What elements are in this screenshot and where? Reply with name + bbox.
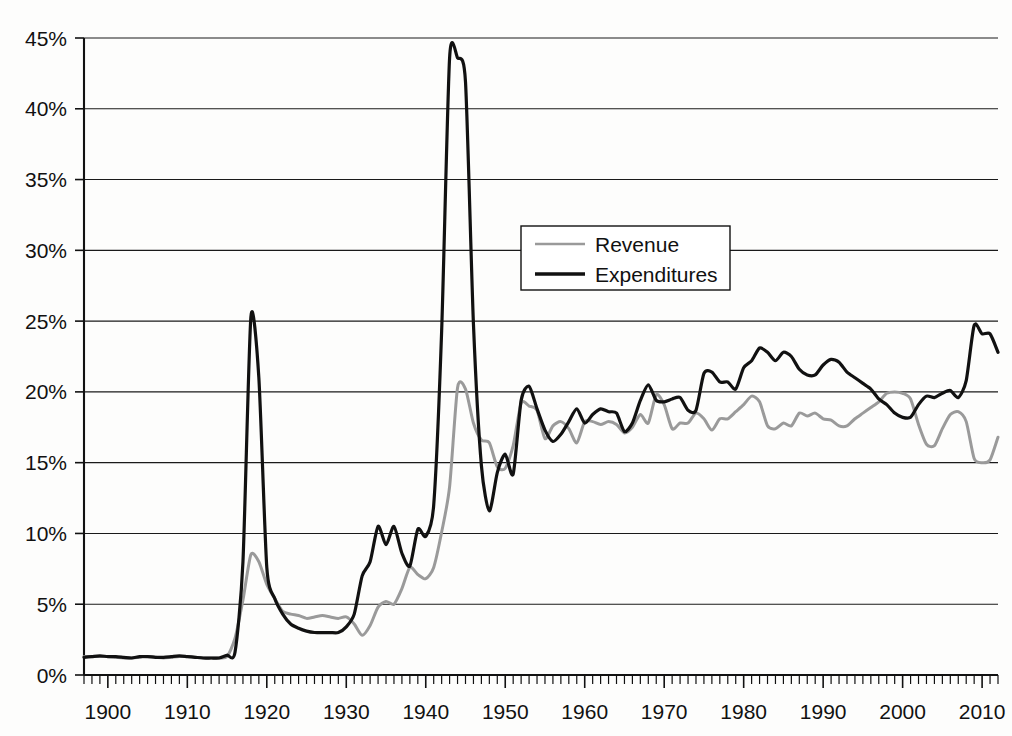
x-tick-label: 1980 — [720, 700, 767, 723]
chart-legend: RevenueExpenditures — [521, 226, 730, 290]
chart-container: 0%5%10%15%20%25%30%35%40%45% 19001910192… — [0, 0, 1012, 736]
y-tick-label: 45% — [25, 27, 67, 50]
x-tick-label: 2010 — [959, 700, 1006, 723]
y-tick-label: 0% — [37, 664, 67, 687]
y-tick-label: 20% — [25, 380, 67, 403]
y-tick-label: 15% — [25, 451, 67, 474]
y-tick-label: 5% — [37, 593, 67, 616]
x-axis-labels-group: 1900191019201930194019501960197019801990… — [84, 700, 1005, 723]
y-axis-ticks-group — [75, 38, 84, 675]
y-tick-label: 10% — [25, 522, 67, 545]
x-tick-label: 1970 — [641, 700, 688, 723]
y-axis-labels-group: 0%5%10%15%20%25%30%35%40%45% — [25, 27, 67, 687]
x-tick-label: 1940 — [402, 700, 449, 723]
x-tick-label: 1990 — [800, 700, 847, 723]
x-tick-label: 2000 — [879, 700, 926, 723]
x-tick-label: 1900 — [84, 700, 131, 723]
line-chart-figure: 0%5%10%15%20%25%30%35%40%45% 19001910192… — [0, 0, 1012, 736]
legend-label-expenditures: Expenditures — [595, 263, 718, 286]
y-tick-label: 40% — [25, 97, 67, 120]
data-series-group — [84, 43, 998, 659]
x-tick-label: 1920 — [243, 700, 290, 723]
x-axis-minor-ticks-group — [84, 675, 998, 688]
x-tick-label: 1930 — [323, 700, 370, 723]
x-tick-label: 1950 — [482, 700, 529, 723]
x-tick-label: 1910 — [164, 700, 211, 723]
y-tick-label: 35% — [25, 168, 67, 191]
y-tick-label: 30% — [25, 239, 67, 262]
gridlines-group — [84, 38, 998, 604]
legend-label-revenue: Revenue — [595, 233, 679, 256]
series-line-expenditures — [84, 43, 998, 659]
x-tick-label: 1960 — [561, 700, 608, 723]
y-tick-label: 25% — [25, 310, 67, 333]
